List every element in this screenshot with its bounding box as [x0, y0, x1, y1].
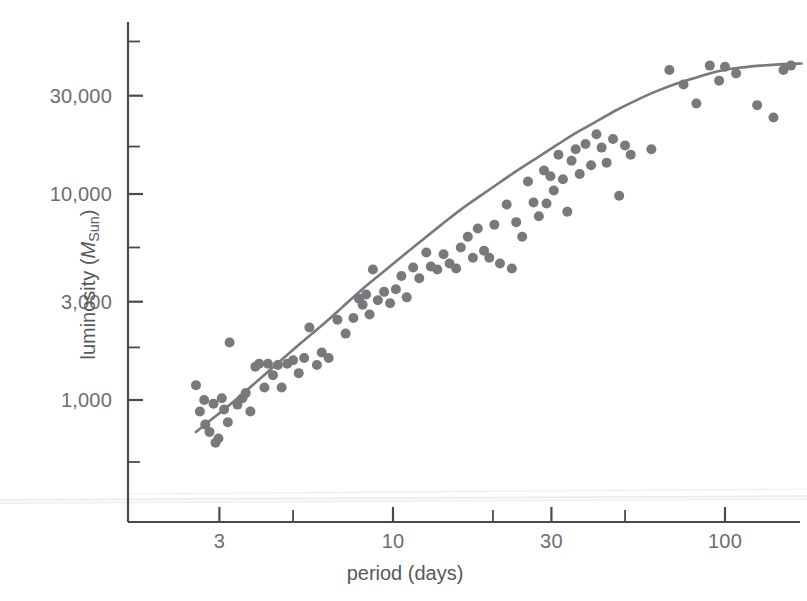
- data-point: [341, 329, 351, 339]
- y-axis-title-symbol: M: [77, 242, 99, 259]
- data-point: [679, 80, 689, 90]
- data-point: [731, 68, 741, 78]
- data-point: [348, 313, 358, 323]
- data-point: [268, 370, 278, 380]
- data-point: [620, 140, 630, 150]
- y-tick-label: 1,000: [0, 389, 112, 412]
- data-point: [575, 169, 585, 179]
- x-tick-label: 100: [708, 530, 742, 553]
- data-point: [259, 383, 269, 393]
- y-tick-label: 10,000: [0, 183, 112, 206]
- data-point: [463, 232, 473, 242]
- data-point: [786, 61, 796, 71]
- data-point: [517, 232, 527, 242]
- data-point: [217, 393, 227, 403]
- x-tick-label: 30: [540, 530, 563, 553]
- data-point: [502, 199, 512, 209]
- data-point: [591, 129, 601, 139]
- data-point: [580, 139, 590, 149]
- data-point: [365, 310, 375, 320]
- data-point: [511, 217, 521, 227]
- data-point: [379, 287, 389, 297]
- data-point: [414, 273, 424, 283]
- data-point: [542, 198, 552, 208]
- data-point: [523, 177, 533, 187]
- data-point: [571, 144, 581, 154]
- data-point: [534, 211, 544, 221]
- scatter-points: [191, 61, 796, 448]
- data-point: [614, 191, 624, 201]
- data-point: [468, 253, 478, 263]
- data-point: [602, 158, 612, 168]
- data-point: [304, 322, 314, 332]
- data-point: [209, 399, 219, 409]
- data-point: [646, 144, 656, 154]
- data-point: [705, 61, 715, 71]
- data-point: [439, 249, 449, 259]
- y-tick-label: 30,000: [0, 84, 112, 107]
- data-point: [368, 265, 378, 275]
- data-point: [586, 160, 596, 170]
- axis-ticks: [128, 41, 725, 522]
- x-tick-label: 10: [382, 530, 405, 553]
- data-point: [199, 395, 209, 405]
- data-point: [720, 62, 730, 72]
- data-point: [288, 355, 298, 365]
- data-point: [191, 380, 201, 390]
- data-point: [245, 406, 255, 416]
- chart-canvas: [0, 0, 807, 601]
- scan-artifact: [0, 489, 807, 503]
- data-point: [626, 150, 636, 160]
- data-point: [451, 263, 461, 273]
- data-point: [361, 290, 371, 300]
- y-axis-title-prefix: luminosity (: [77, 258, 99, 359]
- data-point: [241, 388, 251, 398]
- data-point: [507, 263, 517, 273]
- x-axis-title: period (days): [347, 562, 464, 585]
- data-point: [495, 258, 505, 268]
- data-point: [312, 360, 322, 370]
- data-point: [769, 113, 779, 123]
- x-tick-label: 3: [214, 530, 225, 553]
- data-point: [332, 315, 342, 325]
- data-point: [195, 406, 205, 416]
- data-point: [558, 174, 568, 184]
- data-point: [549, 185, 559, 195]
- data-point: [597, 143, 607, 153]
- data-point: [562, 207, 572, 217]
- data-point: [553, 150, 563, 160]
- data-point: [545, 171, 555, 181]
- data-point: [408, 262, 418, 272]
- data-point: [385, 298, 395, 308]
- data-point: [567, 156, 577, 166]
- period-luminosity-curve: [196, 64, 802, 432]
- data-point: [714, 76, 724, 86]
- data-point: [664, 65, 674, 75]
- data-point: [421, 248, 431, 258]
- data-point: [396, 271, 406, 281]
- data-point: [254, 359, 264, 369]
- data-point: [223, 417, 233, 427]
- data-point: [277, 383, 287, 393]
- data-point: [294, 368, 304, 378]
- data-point: [489, 220, 499, 230]
- data-point: [391, 284, 401, 294]
- data-point: [402, 292, 412, 302]
- data-point: [358, 300, 368, 310]
- y-axis-title: luminosity (MSun): [14, 272, 48, 297]
- data-point: [484, 253, 494, 263]
- y-axis-title-suffix: ): [77, 209, 99, 216]
- data-point: [225, 338, 235, 348]
- data-point: [263, 359, 273, 369]
- data-point: [608, 134, 618, 144]
- data-point: [219, 404, 229, 414]
- y-axis-title-subscript: Sun: [86, 216, 102, 242]
- data-point: [473, 224, 483, 234]
- data-point: [324, 353, 334, 363]
- data-point: [752, 100, 762, 110]
- data-point: [432, 265, 442, 275]
- data-point: [691, 99, 701, 109]
- data-point: [456, 242, 466, 252]
- data-point: [529, 197, 539, 207]
- data-point: [204, 427, 214, 437]
